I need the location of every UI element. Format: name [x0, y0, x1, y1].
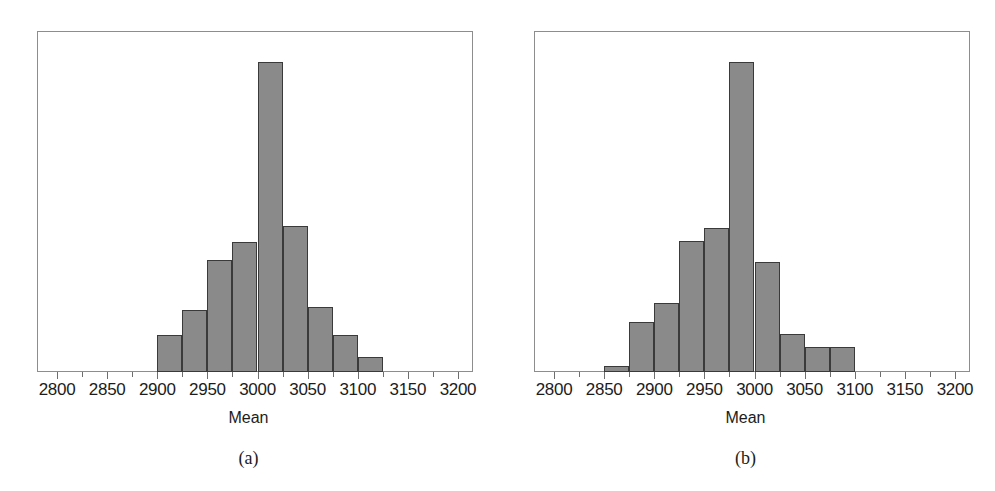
- x-axis-tick-label: 3150: [887, 379, 924, 401]
- x-axis-tick: [333, 372, 334, 377]
- histogram-bar: [157, 335, 182, 372]
- x-axis-title-b: Mean: [497, 409, 994, 427]
- histogram-bar: [333, 335, 358, 372]
- x-axis-tick: [408, 372, 409, 379]
- histogram-bar: [182, 310, 207, 372]
- x-axis-tick-label: 3000: [239, 379, 276, 401]
- histogram-bar: [830, 347, 855, 372]
- figure-histogram-pair: 280028502900295030003050310031503200 Mea…: [0, 0, 995, 491]
- x-axis-tick: [755, 372, 756, 379]
- x-axis-tick-label: 3050: [786, 379, 823, 401]
- x-axis-tick: [458, 372, 459, 379]
- x-axis-tick: [82, 372, 83, 377]
- histogram-bar: [805, 347, 830, 372]
- histogram-bar: [232, 242, 257, 372]
- x-axis-tick-label: 3200: [440, 379, 477, 401]
- histogram-bar: [629, 322, 654, 372]
- panel-a: 280028502900295030003050310031503200 Mea…: [0, 0, 497, 491]
- x-axis-tick: [930, 372, 931, 377]
- x-axis-tick-label: 2900: [636, 379, 673, 401]
- panel-caption-b: (b): [497, 448, 994, 469]
- panel-caption-a: (a): [0, 448, 497, 469]
- x-axis-tick: [780, 372, 781, 377]
- x-axis-tick-label: 3050: [289, 379, 326, 401]
- x-axis-tick: [679, 372, 680, 377]
- x-axis-tick: [57, 372, 58, 379]
- x-axis-tick-label: 2800: [536, 379, 573, 401]
- histogram-bar: [704, 228, 729, 372]
- x-axis-tick-label: 3150: [390, 379, 427, 401]
- x-axis-tick-labels-b: 280028502900295030003050310031503200: [497, 379, 994, 401]
- x-axis-tick: [383, 372, 384, 377]
- x-axis-tick-label: 2850: [586, 379, 623, 401]
- x-axis-tick: [107, 372, 108, 379]
- x-axis-tick: [182, 372, 183, 377]
- histogram-bar: [729, 62, 754, 372]
- x-axis-tick: [232, 372, 233, 377]
- x-axis-tick: [704, 372, 705, 379]
- histogram-bar: [207, 260, 232, 372]
- x-axis-tick: [157, 372, 158, 379]
- x-axis-tick-label: 2800: [39, 379, 76, 401]
- x-axis-tick-label: 2900: [139, 379, 176, 401]
- histogram-bar: [358, 357, 383, 373]
- x-axis-tick-label: 2950: [189, 379, 226, 401]
- x-axis-tick-labels-a: 280028502900295030003050310031503200: [0, 379, 497, 401]
- x-axis-tick: [554, 372, 555, 379]
- x-axis-tick: [308, 372, 309, 379]
- x-axis-title-a: Mean: [0, 409, 497, 427]
- x-axis-tick: [654, 372, 655, 379]
- x-axis-tick-label: 2950: [686, 379, 723, 401]
- x-axis-tick-label: 3000: [736, 379, 773, 401]
- histogram-bar: [654, 303, 679, 372]
- panel-b: 280028502900295030003050310031503200 Mea…: [497, 0, 994, 491]
- histogram-bar: [780, 334, 805, 372]
- x-axis-tick-label: 2850: [89, 379, 126, 401]
- x-axis-tick: [855, 372, 856, 379]
- x-axis-tick: [830, 372, 831, 377]
- x-axis-tick-label: 3100: [339, 379, 376, 401]
- x-axis-tick: [905, 372, 906, 379]
- x-axis-tick: [258, 372, 259, 379]
- histogram-bar: [755, 262, 780, 372]
- x-axis-tick: [433, 372, 434, 377]
- x-axis-tick: [805, 372, 806, 379]
- x-axis-tick-label: 3100: [836, 379, 873, 401]
- x-axis-tick-label: 3200: [937, 379, 974, 401]
- x-axis-tick: [604, 372, 605, 379]
- x-axis-tick: [629, 372, 630, 377]
- x-axis-tick: [207, 372, 208, 379]
- histogram-bar: [283, 226, 308, 372]
- x-axis-tick: [579, 372, 580, 377]
- x-axis-tick: [880, 372, 881, 377]
- bars-b: [535, 32, 969, 372]
- x-axis-tick: [729, 372, 730, 377]
- histogram-bar: [308, 307, 333, 372]
- x-axis-tick: [283, 372, 284, 377]
- bars-a: [38, 32, 472, 372]
- histogram-bar: [258, 62, 283, 372]
- x-axis-tick: [132, 372, 133, 377]
- histogram-bar: [679, 241, 704, 373]
- x-axis-tick: [358, 372, 359, 379]
- x-axis-tick: [955, 372, 956, 379]
